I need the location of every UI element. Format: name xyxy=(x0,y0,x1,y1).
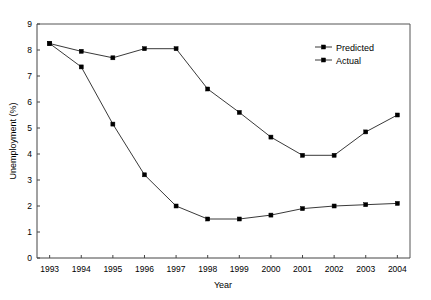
legend-label: Actual xyxy=(336,56,361,66)
chart-legend: PredictedActual xyxy=(315,43,374,66)
x-tick-label: 1994 xyxy=(72,264,91,274)
data-point-marker xyxy=(237,110,241,114)
x-tick-label: 2004 xyxy=(388,264,407,274)
data-point-marker xyxy=(79,49,83,53)
y-axis-tick-labels: 0123456789 xyxy=(27,19,32,263)
data-point-marker xyxy=(174,204,178,208)
y-tick-label: 4 xyxy=(27,149,32,159)
data-point-marker xyxy=(301,153,305,157)
x-axis: 1993199419951996199719981999200020012002… xyxy=(37,255,410,290)
legend-label: Predicted xyxy=(336,43,374,53)
series-line xyxy=(50,44,398,220)
y-tick-label: 8 xyxy=(27,45,32,55)
x-tick-label: 1993 xyxy=(40,264,59,274)
y-tick-label: 5 xyxy=(27,123,32,133)
data-point-marker xyxy=(142,173,146,177)
x-axis-title: Year xyxy=(214,280,232,290)
series-predicted xyxy=(48,42,400,222)
data-point-marker xyxy=(206,217,210,221)
data-point-marker xyxy=(237,217,241,221)
x-tick-label: 1996 xyxy=(135,264,154,274)
data-point-marker xyxy=(142,47,146,51)
data-series-layer xyxy=(48,42,400,222)
data-point-marker xyxy=(395,201,399,205)
x-tick-label: 2002 xyxy=(325,264,344,274)
y-tick-label: 2 xyxy=(27,201,32,211)
y-tick-label: 7 xyxy=(27,71,32,81)
y-tick-label: 6 xyxy=(27,97,32,107)
data-point-marker xyxy=(269,135,273,139)
y-axis-title: Unemployment (%) xyxy=(8,102,18,179)
x-tick-label: 2001 xyxy=(293,264,312,274)
data-point-marker xyxy=(364,203,368,207)
x-tick-label: 1999 xyxy=(230,264,249,274)
data-point-marker xyxy=(269,213,273,217)
x-tick-label: 1995 xyxy=(103,264,122,274)
legend-marker xyxy=(322,45,326,49)
data-point-marker xyxy=(332,153,336,157)
data-point-marker xyxy=(111,122,115,126)
x-tick-label: 1997 xyxy=(167,264,186,274)
data-point-marker xyxy=(111,56,115,60)
x-axis-tick-labels: 1993199419951996199719981999200020012002… xyxy=(40,264,407,274)
y-tick-label: 9 xyxy=(27,19,32,29)
legend-entry-predicted: Predicted xyxy=(315,43,374,53)
data-point-marker xyxy=(174,47,178,51)
y-tick-label: 0 xyxy=(27,253,32,263)
data-point-marker xyxy=(364,130,368,134)
x-tick-label: 2000 xyxy=(261,264,280,274)
chart-figure: 0123456789 Unemployment (%) 199319941995… xyxy=(0,0,431,300)
data-point-marker xyxy=(206,87,210,91)
y-tick-label: 3 xyxy=(27,175,32,185)
data-point-marker xyxy=(395,113,399,117)
unemployment-line-chart: 0123456789 Unemployment (%) 199319941995… xyxy=(0,0,431,300)
data-point-marker xyxy=(301,207,305,211)
data-point-marker xyxy=(332,204,336,208)
legend-marker xyxy=(322,58,326,62)
legend-entry-actual: Actual xyxy=(315,56,361,66)
data-point-marker xyxy=(79,65,83,69)
x-tick-label: 2003 xyxy=(356,264,375,274)
y-axis: 0123456789 Unemployment (%) xyxy=(8,19,40,263)
x-tick-label: 1998 xyxy=(198,264,217,274)
y-tick-label: 1 xyxy=(27,227,32,237)
data-point-marker xyxy=(48,42,52,46)
